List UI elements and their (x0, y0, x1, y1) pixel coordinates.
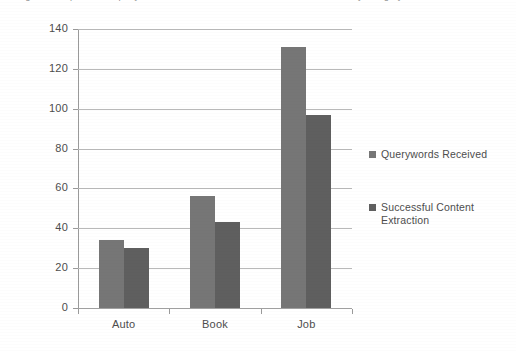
legend-swatch-icon (369, 204, 376, 211)
y-tick-mark (73, 149, 78, 150)
x-tick-label: Book (170, 318, 260, 330)
legend-swatch-icon (369, 151, 376, 158)
bar[interactable] (124, 248, 149, 308)
y-tick-label: 140 (28, 23, 68, 34)
gridline (78, 308, 352, 309)
y-tick-label: 100 (28, 103, 68, 114)
y-tick-mark (73, 268, 78, 269)
bar[interactable] (190, 196, 215, 308)
legend-entry-querywords-received[interactable]: Querywords Received (369, 148, 512, 161)
chart-legend: Querywords Received Successful Content E… (369, 148, 512, 267)
gridline (78, 109, 352, 110)
y-tick-mark (73, 228, 78, 229)
bar[interactable] (215, 222, 240, 308)
gridline (78, 29, 352, 30)
y-tick-mark (73, 188, 78, 189)
legend-label: Successful Content Extraction (381, 201, 512, 227)
y-tick-mark (73, 69, 78, 70)
x-tick-mark (78, 309, 79, 314)
x-tick-mark (169, 309, 170, 314)
x-tick-mark (352, 309, 353, 314)
gridline (78, 69, 352, 70)
legend-entry-successful-content-extraction[interactable]: Successful Content Extraction (369, 201, 512, 227)
y-tick-mark (73, 109, 78, 110)
y-tick-mark (73, 29, 78, 30)
bar[interactable] (99, 240, 124, 308)
y-tick-label: 0 (28, 302, 68, 313)
x-tick-mark (261, 309, 262, 314)
y-tick-label: 40 (28, 222, 68, 233)
bar[interactable] (281, 47, 306, 308)
x-tick-label: Job (261, 318, 351, 330)
y-tick-label: 60 (28, 182, 68, 193)
legend-label: Querywords Received (381, 148, 487, 161)
y-tick-label: 80 (28, 143, 68, 154)
bar[interactable] (306, 115, 331, 308)
plot-area (78, 29, 352, 308)
y-tick-label: 120 (28, 63, 68, 74)
x-tick-label: Auto (79, 318, 169, 330)
bar-chart-figure: 020406080100120140 AutoBookJob Queryword… (0, 0, 516, 351)
y-tick-label: 20 (28, 262, 68, 273)
